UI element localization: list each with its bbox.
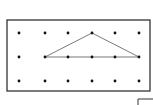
grid-dot: [91, 32, 94, 35]
grid-dot: [67, 56, 70, 59]
grid-dot: [138, 56, 141, 59]
grid-dot: [67, 80, 70, 83]
dot-grid-diagram: [0, 0, 153, 105]
grid-dot: [18, 80, 21, 83]
grid-dot: [18, 32, 21, 35]
triangle-shape: [45, 33, 139, 57]
grid-dot: [114, 32, 117, 35]
grid-dot: [114, 80, 117, 83]
grid-dot: [44, 80, 47, 83]
grid-dot: [44, 32, 47, 35]
corner-bracket: [138, 99, 153, 105]
grid-dot: [67, 32, 70, 35]
grid-frame: [7, 20, 150, 91]
grid-dot: [18, 56, 21, 59]
grid-dot: [91, 80, 94, 83]
grid-dot: [138, 80, 141, 83]
grid-dot: [91, 56, 94, 59]
grid-dot: [138, 32, 141, 35]
grid-dot: [44, 56, 47, 59]
grid-dot: [114, 56, 117, 59]
